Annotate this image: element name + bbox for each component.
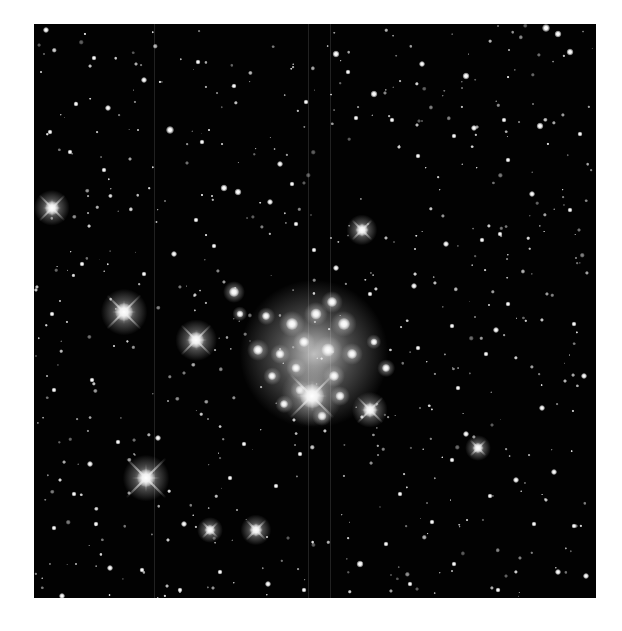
faint-star bbox=[69, 250, 72, 253]
faint-star bbox=[562, 54, 565, 57]
star bbox=[572, 524, 577, 529]
faint-star bbox=[384, 236, 388, 240]
faint-star bbox=[469, 372, 471, 374]
star bbox=[529, 191, 535, 197]
faint-star bbox=[96, 206, 100, 210]
faint-star bbox=[572, 342, 576, 346]
faint-star bbox=[505, 130, 509, 134]
faint-star bbox=[109, 250, 111, 252]
faint-star bbox=[452, 367, 455, 370]
faint-star bbox=[484, 269, 487, 272]
faint-star bbox=[530, 365, 534, 369]
star bbox=[502, 118, 507, 123]
faint-star bbox=[273, 147, 276, 150]
faint-star bbox=[89, 97, 92, 100]
faint-star bbox=[505, 448, 508, 451]
faint-star bbox=[68, 438, 72, 442]
faint-star bbox=[165, 585, 169, 589]
faint-star bbox=[306, 173, 310, 177]
faint-star bbox=[579, 262, 581, 264]
faint-star bbox=[506, 276, 509, 279]
faint-star bbox=[58, 148, 61, 151]
faint-star bbox=[542, 213, 546, 217]
star bbox=[537, 123, 544, 130]
faint-star bbox=[469, 336, 473, 340]
faint-star bbox=[376, 454, 379, 457]
cluster-star bbox=[299, 337, 309, 347]
faint-star bbox=[128, 157, 132, 161]
star bbox=[302, 588, 307, 593]
faint-star bbox=[248, 71, 252, 75]
star bbox=[267, 199, 273, 205]
faint-star bbox=[101, 156, 103, 158]
cluster-star bbox=[371, 339, 378, 346]
star bbox=[166, 126, 174, 134]
faint-star bbox=[414, 248, 417, 251]
star bbox=[200, 140, 205, 145]
faint-star bbox=[429, 105, 433, 109]
faint-star bbox=[438, 189, 441, 192]
faint-star bbox=[481, 519, 484, 522]
faint-star bbox=[108, 178, 110, 180]
star bbox=[212, 244, 217, 249]
faint-star bbox=[339, 59, 342, 62]
faint-star bbox=[153, 44, 157, 48]
faint-star bbox=[193, 69, 195, 71]
faint-star bbox=[163, 594, 166, 597]
faint-star bbox=[496, 548, 500, 552]
faint-star bbox=[461, 87, 463, 89]
star bbox=[416, 154, 421, 159]
faint-star bbox=[521, 491, 523, 493]
faint-star bbox=[199, 289, 202, 292]
faint-star bbox=[120, 417, 122, 419]
faint-star bbox=[472, 227, 475, 230]
faint-star bbox=[79, 40, 83, 44]
faint-star bbox=[56, 266, 58, 268]
faint-star bbox=[204, 61, 207, 64]
faint-star bbox=[34, 572, 37, 575]
star bbox=[94, 522, 99, 527]
faint-star bbox=[347, 137, 351, 141]
faint-star bbox=[518, 556, 522, 560]
star bbox=[277, 161, 283, 167]
faint-star bbox=[107, 263, 109, 265]
star bbox=[52, 526, 57, 531]
star bbox=[411, 283, 417, 289]
faint-star bbox=[382, 91, 386, 95]
faint-star bbox=[270, 275, 272, 277]
faint-star bbox=[455, 445, 459, 449]
faint-star bbox=[349, 521, 351, 523]
faint-star bbox=[232, 539, 234, 541]
star bbox=[408, 582, 413, 587]
faint-star bbox=[330, 93, 333, 96]
star bbox=[196, 60, 201, 65]
faint-star bbox=[156, 597, 159, 598]
faint-star bbox=[403, 473, 406, 476]
faint-star bbox=[131, 51, 135, 55]
faint-star bbox=[488, 39, 492, 43]
faint-star bbox=[399, 144, 401, 146]
faint-star bbox=[128, 207, 132, 211]
faint-star bbox=[133, 100, 136, 103]
faint-star bbox=[422, 535, 426, 539]
star bbox=[430, 520, 435, 525]
faint-star bbox=[422, 86, 426, 90]
faint-star bbox=[84, 32, 87, 35]
faint-star bbox=[207, 418, 209, 420]
faint-star bbox=[457, 367, 459, 369]
faint-star bbox=[574, 257, 577, 260]
faint-star bbox=[451, 33, 453, 35]
faint-star bbox=[218, 456, 221, 459]
star bbox=[232, 84, 237, 89]
faint-star bbox=[62, 460, 66, 464]
faint-star bbox=[94, 507, 98, 511]
star bbox=[140, 568, 145, 573]
faint-star bbox=[303, 126, 305, 128]
faint-star bbox=[379, 506, 381, 508]
faint-star bbox=[532, 103, 534, 105]
faint-star bbox=[409, 447, 412, 450]
faint-star bbox=[58, 478, 62, 482]
faint-star bbox=[404, 524, 407, 527]
faint-star bbox=[280, 559, 283, 562]
faint-star bbox=[260, 225, 264, 229]
